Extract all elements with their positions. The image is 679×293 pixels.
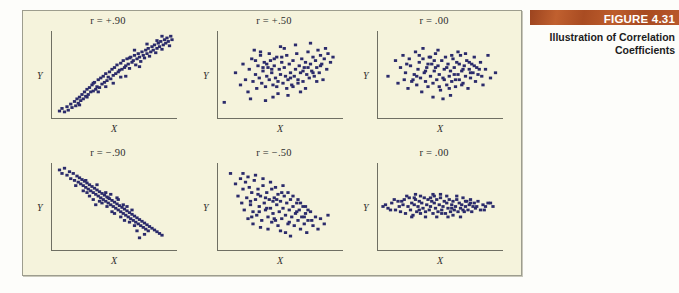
scatter-points — [218, 31, 343, 118]
x-axis-line — [217, 118, 343, 119]
y-axis-label: Y — [363, 70, 369, 81]
axes-box: Y X — [377, 163, 503, 251]
scatter-panel-r-zero-top: r = .00 Y X — [355, 15, 513, 140]
axes-box: Y X — [217, 31, 343, 119]
scatterplot-grid: r = +.90 Y X r = +.50 Y X — [23, 11, 521, 275]
panel-title: r = +.90 — [29, 15, 187, 26]
y-axis-label: Y — [37, 202, 43, 213]
scatter-points — [378, 163, 503, 250]
panel-title: r = .00 — [355, 15, 513, 26]
figure-number-banner: FIGURE 4.31 — [530, 10, 679, 25]
panel-title: r = −.50 — [195, 147, 353, 158]
x-axis-line — [377, 250, 503, 251]
x-axis-label: X — [111, 255, 117, 266]
panel-title: r = .00 — [355, 147, 513, 158]
scatter-panel-r-minus-90: r = −.90 Y X — [29, 147, 187, 272]
axes-box: Y X — [51, 163, 177, 251]
x-axis-line — [217, 250, 343, 251]
axes-box: Y X — [377, 31, 503, 119]
scatter-panel-r-minus-50: r = −.50 Y X — [195, 147, 353, 272]
scatter-panel-r-zero-bottom: r = .00 Y X — [355, 147, 513, 272]
x-axis-line — [51, 250, 177, 251]
scatter-points — [52, 31, 177, 118]
axes-box: Y X — [51, 31, 177, 119]
scatter-points — [218, 163, 343, 250]
figure-number-label: FIGURE 4.31 — [604, 13, 675, 25]
figure-caption-text: Illustration of Correlation Coefficients — [530, 31, 679, 57]
x-axis-line — [51, 118, 177, 119]
y-axis-label: Y — [203, 202, 209, 213]
x-axis-label: X — [111, 123, 117, 134]
y-axis-label: Y — [203, 70, 209, 81]
x-axis-label: X — [437, 255, 443, 266]
figure-caption-block: FIGURE 4.31 Illustration of Correlation … — [530, 10, 679, 57]
y-axis-label: Y — [37, 70, 43, 81]
scatter-points — [378, 31, 503, 118]
figure-page: r = +.90 Y X r = +.50 Y X — [0, 0, 679, 293]
scatter-panel-r-plus-50: r = +.50 Y X — [195, 15, 353, 140]
panel-title: r = −.90 — [29, 147, 187, 158]
figure-plot-panel: r = +.90 Y X r = +.50 Y X — [22, 10, 522, 276]
x-axis-label: X — [277, 255, 283, 266]
panel-title: r = +.50 — [195, 15, 353, 26]
scatter-points — [52, 163, 177, 250]
scatter-panel-r-plus-90: r = +.90 Y X — [29, 15, 187, 140]
x-axis-label: X — [277, 123, 283, 134]
x-axis-line — [377, 118, 503, 119]
axes-box: Y X — [217, 163, 343, 251]
x-axis-label: X — [437, 123, 443, 134]
y-axis-label: Y — [363, 202, 369, 213]
